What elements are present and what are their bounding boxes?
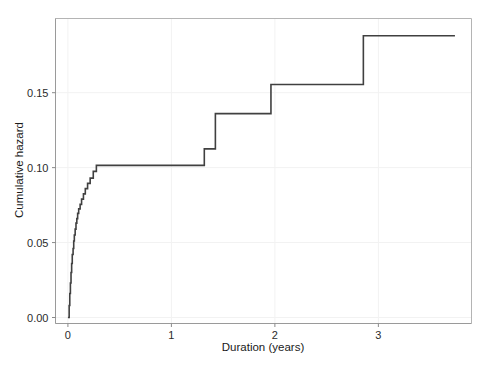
y-tick-label: 0.15 (27, 87, 48, 99)
cumulative-hazard-plot: 0.000.050.100.15 0123 Duration (years) C… (0, 0, 488, 367)
plot-background (55, 18, 472, 323)
y-axis-title: Cumulative hazard (13, 122, 25, 218)
x-tick-label: 3 (375, 329, 381, 341)
x-axis-title: Duration (years) (222, 341, 305, 353)
x-tick-label: 1 (168, 329, 174, 341)
y-tick-label: 0.00 (27, 312, 48, 324)
y-axis-ticks (52, 93, 56, 318)
x-axis-tick-labels: 0123 (65, 329, 382, 341)
y-axis-tick-labels: 0.000.050.100.15 (27, 87, 48, 324)
x-tick-label: 0 (65, 329, 71, 341)
chart-figure: 0.000.050.100.15 0123 Duration (years) C… (0, 0, 488, 367)
y-tick-label: 0.10 (27, 162, 48, 174)
x-axis-ticks (68, 324, 378, 328)
y-tick-label: 0.05 (27, 237, 48, 249)
x-tick-label: 2 (272, 329, 278, 341)
